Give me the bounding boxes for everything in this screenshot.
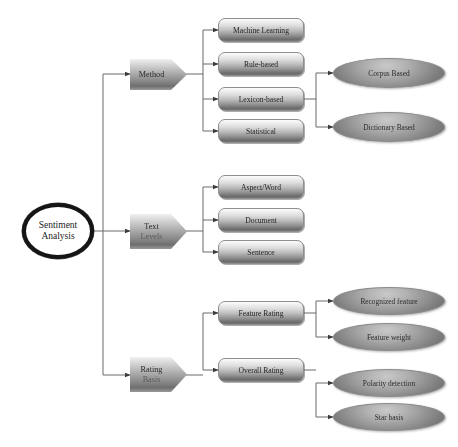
branch-method-label: Method (139, 70, 164, 80)
node-feature-weight-label: Feature weight (367, 333, 411, 342)
node-polarity-detection-label: Polarity detection (363, 379, 415, 388)
node-star-basis-label: Star basis (375, 413, 404, 422)
branch-text-levels-label-line1: Text (144, 222, 158, 232)
node-sentence[interactable]: Sentence (218, 240, 304, 264)
node-feature-weight[interactable]: Feature weight (333, 323, 445, 351)
node-lexicon-based-label: Lexicon-based (239, 95, 284, 104)
node-aspect-word[interactable]: Aspect/Word (218, 175, 304, 199)
node-machine-learning-label: Machine Learning (233, 26, 289, 35)
sentiment-analysis-root[interactable]: Sentiment Analysis (22, 203, 94, 259)
node-corpus-based-label: Corpus Based (368, 69, 409, 78)
node-rule-based-label: Rule-based (244, 60, 278, 69)
node-dictionary-based[interactable]: Dictionary Based (333, 112, 445, 142)
node-recognized-feature[interactable]: Recognized feature (333, 287, 445, 315)
node-feature-rating-label: Feature Rating (239, 309, 284, 318)
node-overall-rating-label: Overall Rating (239, 366, 284, 375)
node-document[interactable]: Document (218, 208, 304, 232)
node-aspect-word-label: Aspect/Word (241, 183, 281, 192)
node-dictionary-based-label: Dictionary Based (363, 123, 415, 132)
node-star-basis[interactable]: Star basis (333, 403, 445, 431)
node-statistical-label: Statistical (246, 127, 276, 136)
node-recognized-feature-label: Recognized feature (360, 297, 417, 306)
node-sentence-label: Sentence (247, 248, 274, 257)
node-lexicon-based[interactable]: Lexicon-based (218, 87, 304, 111)
node-document-label: Document (245, 216, 277, 225)
root-label-line1: Sentiment (39, 220, 78, 231)
node-overall-rating[interactable]: Overall Rating (218, 358, 304, 382)
branch-rating-basis-label-line1: Rating (141, 365, 163, 375)
branch-text-levels-label-line2: Levels (141, 232, 163, 242)
node-corpus-based[interactable]: Corpus Based (333, 58, 445, 88)
branch-rating-basis-label-line2: Basis (143, 375, 161, 385)
node-rule-based[interactable]: Rule-based (218, 52, 304, 76)
root-label-line2: Analysis (41, 231, 74, 242)
node-feature-rating[interactable]: Feature Rating (218, 301, 304, 325)
node-polarity-detection[interactable]: Polarity detection (333, 369, 445, 397)
node-machine-learning[interactable]: Machine Learning (218, 18, 304, 42)
node-statistical[interactable]: Statistical (218, 119, 304, 143)
